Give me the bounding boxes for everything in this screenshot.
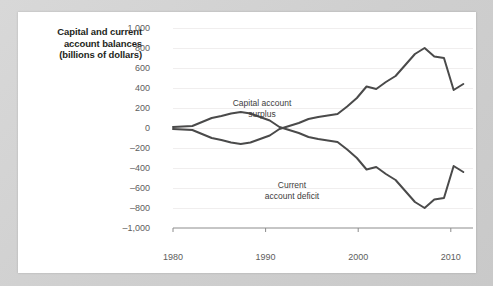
annotation-current-account-deficit: Current account deficit: [265, 180, 319, 201]
chart-svg: [155, 28, 475, 268]
x-axis-tick-label: 1990: [256, 252, 276, 262]
annotation-line-1: Current: [265, 180, 319, 191]
axis-lines: [173, 228, 473, 232]
annotation-capital-account-surplus: Capital account surplus: [233, 98, 292, 119]
y-axis-tick-label: –600: [90, 183, 155, 193]
x-axis-tick-label: 1980: [163, 252, 183, 262]
y-axis-tick-label: 1,000: [90, 23, 155, 33]
annotation-line-2: account deficit: [265, 191, 319, 202]
y-axis-tick-label: –400: [90, 163, 155, 173]
y-axis-tick-label: –200: [90, 143, 155, 153]
y-axis-tick-label: 200: [90, 103, 155, 113]
x-axis-tick-label: 2010: [441, 252, 461, 262]
annotation-line-1: Capital account: [233, 98, 292, 109]
series-line-capital-account-surplus: [173, 48, 463, 144]
screenshot-root: Capital and current account balances (bi…: [0, 0, 493, 286]
chart-card: Capital and current account balances (bi…: [18, 12, 476, 273]
y-axis-tick-label: –1,000: [90, 223, 155, 233]
y-axis-tick-label: 0: [90, 123, 155, 133]
y-axis-tick-label: –800: [90, 203, 155, 213]
y-axis-tick-label: 800: [90, 43, 155, 53]
plot-area: 1,000 800 600 400 200 0 –200 –400 –600 –…: [155, 28, 475, 268]
y-axis-tick-label: 400: [90, 83, 155, 93]
x-axis-tick-label: 2000: [348, 252, 368, 262]
annotation-line-2: surplus: [233, 109, 292, 120]
y-axis-tick-label: 600: [90, 63, 155, 73]
